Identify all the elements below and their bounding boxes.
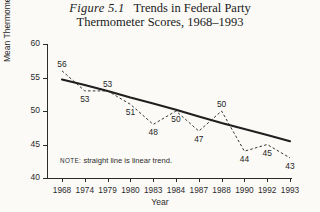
x-tick-label-1968: 1968 xyxy=(53,185,71,195)
data-label-1968: 56 xyxy=(57,59,66,69)
figure-title-text: Trends in Federal Party xyxy=(134,1,251,15)
note-label: NOTE: xyxy=(60,157,81,164)
data-label-1974: 53 xyxy=(80,94,89,104)
chart-note: NOTE: straight line is linear trend. xyxy=(60,156,172,165)
data-label-1990: 44 xyxy=(240,154,249,164)
x-tick-label-1983: 1983 xyxy=(144,185,162,195)
data-label-1993: 43 xyxy=(285,161,294,171)
figure-title-line-1: Figure 5.1Trends in Federal Party xyxy=(0,1,320,15)
x-tick-label-1992: 1992 xyxy=(258,185,276,195)
x-axis-title: Year xyxy=(0,197,320,207)
figure-chart: Figure 5.1Trends in Federal Party Thermo… xyxy=(0,0,320,212)
x-tick-label-1990: 1990 xyxy=(235,185,253,195)
y-tick-label-50: 50 xyxy=(31,105,40,115)
x-tick-label-1974: 1974 xyxy=(76,185,94,195)
data-label-1987: 47 xyxy=(194,134,203,144)
x-tick-label-1987: 1987 xyxy=(190,185,208,195)
series-trend xyxy=(62,80,290,142)
note-text: straight line is linear trend. xyxy=(83,156,172,165)
data-label-1983: 48 xyxy=(149,127,158,137)
y-tick-label-55: 55 xyxy=(31,72,40,82)
data-label-1980: 51 xyxy=(126,107,135,117)
figure-title-line-2: Thermometer Scores, 1968–1993 xyxy=(0,15,320,29)
x-tick-label-1980: 1980 xyxy=(121,185,139,195)
x-tick-label-1988: 1988 xyxy=(212,185,230,195)
x-tick-label-1979: 1979 xyxy=(98,185,116,195)
data-label-1984: 50 xyxy=(171,114,180,124)
y-tick-label-40: 40 xyxy=(31,172,40,182)
data-label-1979: 53 xyxy=(103,79,112,89)
figure-number: Figure 5.1 xyxy=(69,1,124,15)
figure-title: Figure 5.1Trends in Federal Party Thermo… xyxy=(0,1,320,29)
y-tick-label-60: 60 xyxy=(31,38,40,48)
x-tick-label-1984: 1984 xyxy=(167,185,185,195)
data-label-1988: 50 xyxy=(217,99,226,109)
data-label-1992: 45 xyxy=(263,148,272,158)
y-axis-title: Mean Thermometer Score xyxy=(2,0,12,62)
y-tick-label-45: 45 xyxy=(31,139,40,149)
x-tick-label-1993: 1993 xyxy=(281,185,299,195)
